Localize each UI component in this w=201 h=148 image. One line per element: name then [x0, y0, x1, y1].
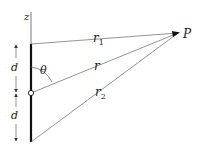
ray-r2: [31, 33, 178, 142]
feed-point-circle: [28, 90, 33, 95]
dipole-antenna-diagram: z P θ r1 r r2 d d: [0, 0, 201, 148]
point-p-label: P: [182, 27, 192, 41]
r1-label: r1: [93, 31, 104, 47]
d-lower-label: d: [11, 109, 18, 122]
r-label: r: [94, 59, 101, 73]
theta-label: θ: [40, 64, 47, 77]
z-axis-label: z: [23, 11, 30, 22]
d-upper-label: d: [11, 61, 18, 74]
point-p-marker: [172, 31, 180, 37]
